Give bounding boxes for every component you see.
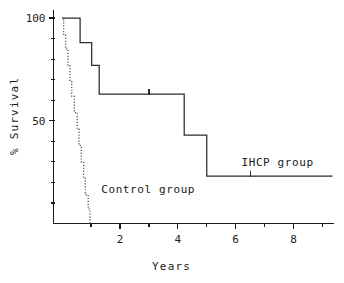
x-axis-tick-label: 2 [117, 233, 124, 246]
x-axis-tick-label: 8 [290, 233, 297, 246]
chart-canvas: % Survival Years IHCP group Control grou… [0, 0, 344, 283]
x-axis-tick-label: 4 [175, 233, 182, 246]
y-axis-tick-label: 50 [32, 115, 45, 128]
survival-curve-ihcp-group [62, 18, 332, 176]
series-label-ihcp-group: IHCP group [241, 156, 313, 169]
survival-curve-control-group [62, 18, 90, 224]
survival-chart-figure: % Survival Years IHCP group Control grou… [0, 0, 344, 283]
x-axis-tick-label: 6 [232, 233, 239, 246]
censor-marks-group [149, 89, 250, 177]
y-axis-title: % Survival [8, 77, 21, 155]
series-label-control-group: Control group [101, 183, 195, 196]
y-axis-tick-label: 100 [26, 12, 46, 25]
axis-ticks-group [49, 18, 323, 229]
x-axis-title: Years [152, 260, 191, 273]
